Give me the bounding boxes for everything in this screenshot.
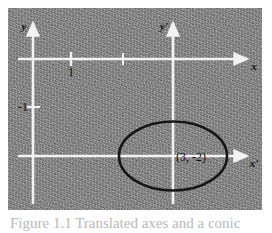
translated-axes: [18, 23, 247, 204]
figure-caption: Figure 1.1 Translated axes and a conic: [10, 214, 260, 233]
figure-root: y x y' x' 1 -1 (3, -2) Figure 1.1 Transl…: [0, 0, 272, 233]
x-prime-axis-label: x': [249, 157, 259, 169]
original-axes: [18, 23, 247, 204]
y-axis-label: y: [20, 20, 27, 32]
ellipse-center-label: (3, -2): [176, 150, 206, 164]
y-prime-axis-label: y': [158, 20, 168, 32]
coordinate-plot: y x y' x' 1 -1 (3, -2): [8, 8, 262, 210]
x-axis-label: x: [250, 60, 257, 72]
y-tick-label-minus-1: -1: [18, 100, 28, 114]
x-tick-label-1: 1: [68, 65, 74, 79]
figure-caption-text: Figure 1.1 Translated axes and a conic: [10, 214, 260, 233]
plot-panel: y x y' x' 1 -1 (3, -2): [8, 8, 262, 210]
